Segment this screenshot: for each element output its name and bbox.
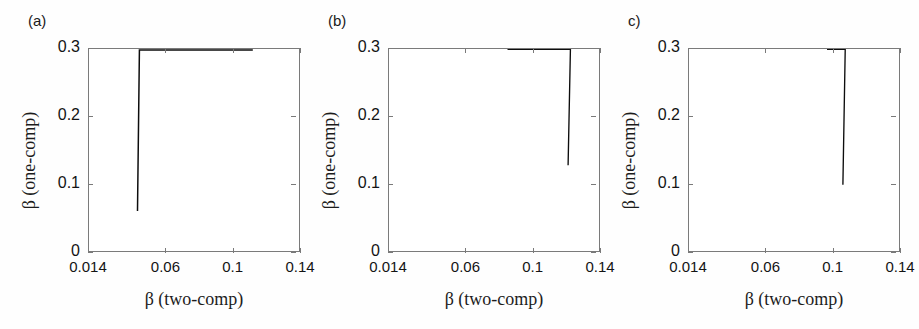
y-tickmark — [891, 184, 896, 185]
y-axis-title: β (one-comp) — [19, 76, 40, 246]
y-tickmark — [88, 184, 93, 185]
plot-area — [388, 48, 600, 252]
x-tick-label: 0.06 — [751, 258, 780, 275]
plot-area — [88, 48, 300, 252]
panel-label: (b) — [328, 12, 346, 29]
x-axis-title: β (two-comp) — [688, 289, 900, 310]
x-tickmark — [765, 48, 766, 53]
panel-label: (a) — [28, 12, 46, 29]
figure-root: (a)00.10.20.30.0140.060.10.14β (two-comp… — [0, 0, 919, 329]
x-tick-label: 0.06 — [451, 258, 480, 275]
x-tickmark — [900, 48, 901, 53]
x-tickmark — [533, 248, 534, 253]
y-tickmark — [88, 116, 93, 117]
x-tickmark — [233, 248, 234, 253]
y-tickmark — [688, 116, 693, 117]
x-tickmark — [465, 48, 466, 53]
scatter-series — [389, 49, 600, 252]
x-tickmark — [465, 248, 466, 253]
panel-b: (b)00.10.20.30.0140.060.10.14β (two-comp… — [300, 0, 600, 329]
y-tickmark — [88, 252, 93, 253]
x-tick-label: 0.014 — [669, 258, 707, 275]
y-tickmark — [291, 48, 296, 49]
x-axis-title: β (two-comp) — [388, 289, 600, 310]
y-tickmark — [591, 252, 596, 253]
y-tickmark — [291, 116, 296, 117]
x-tick-label: 0.1 — [222, 258, 243, 275]
x-tickmark — [533, 48, 534, 53]
y-tickmark — [688, 48, 693, 49]
y-tickmark — [388, 252, 393, 253]
scatter-series — [689, 49, 900, 252]
y-tickmark — [688, 252, 693, 253]
y-tickmark — [688, 184, 693, 185]
scatter-series — [89, 49, 300, 252]
y-tick-label: 0.3 — [20, 38, 80, 56]
y-tickmark — [591, 184, 596, 185]
y-tickmark — [591, 48, 596, 49]
y-tickmark — [291, 184, 296, 185]
x-tickmark — [165, 48, 166, 53]
y-tickmark — [891, 48, 896, 49]
x-tick-label: 0.06 — [151, 258, 180, 275]
y-tickmark — [291, 252, 296, 253]
y-tickmark — [88, 48, 93, 49]
x-axis-title: β (two-comp) — [88, 289, 300, 310]
x-tick-label: 0.1 — [522, 258, 543, 275]
x-tick-label: 0.1 — [822, 258, 843, 275]
x-tick-label: 0.14 — [885, 258, 914, 275]
x-tick-label: 0.014 — [369, 258, 407, 275]
y-axis-title: β (one-comp) — [619, 76, 640, 246]
x-tickmark — [900, 248, 901, 253]
y-tickmark — [388, 116, 393, 117]
y-tick-label: 0.3 — [320, 38, 380, 56]
y-tickmark — [891, 116, 896, 117]
y-tick-label: 0.3 — [620, 38, 680, 56]
x-tickmark — [765, 248, 766, 253]
x-tickmark — [833, 48, 834, 53]
plot-area — [688, 48, 900, 252]
panel-label: c) — [628, 12, 641, 29]
y-tickmark — [388, 48, 393, 49]
x-tickmark — [165, 248, 166, 253]
y-axis-title: β (one-comp) — [319, 76, 340, 246]
panel-c: c)00.10.20.30.0140.060.10.14β (two-comp)… — [600, 0, 900, 329]
x-tickmark — [233, 48, 234, 53]
y-tickmark — [891, 252, 896, 253]
y-tickmark — [388, 184, 393, 185]
x-tick-label: 0.014 — [69, 258, 107, 275]
y-tickmark — [591, 116, 596, 117]
panel-a: (a)00.10.20.30.0140.060.10.14β (two-comp… — [0, 0, 300, 329]
x-tickmark — [833, 248, 834, 253]
